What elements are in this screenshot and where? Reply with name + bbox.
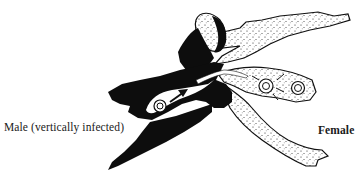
male-label: Male (vertically infected) <box>4 121 124 133</box>
female-particle-2 <box>292 82 305 95</box>
mating-diagram <box>0 0 362 184</box>
male-particle <box>154 100 166 112</box>
female-label: Female <box>318 124 354 136</box>
female-particle-1 <box>259 79 273 93</box>
female-upper-body <box>215 12 350 64</box>
